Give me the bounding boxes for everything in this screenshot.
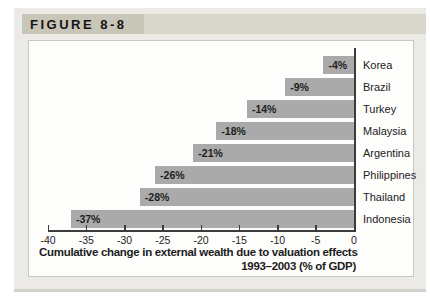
x-tick-label--35: -35 (71, 234, 101, 246)
bar-value-label: -18% (216, 125, 246, 137)
bar-value-label: -37% (71, 213, 101, 225)
figure-header-strip: FIGURE 8-8 (22, 14, 426, 34)
x-tick-label--5: -5 (301, 234, 331, 246)
figure-8-8-frame: FIGURE 8-8 -4%Korea-9%Brazil-14%Turkey-1… (14, 8, 426, 292)
country-label-korea: Korea (363, 56, 392, 74)
x-tick--15 (239, 225, 241, 230)
country-label-argentina: Argentina (363, 144, 410, 162)
country-label-indonesia: Indonesia (363, 210, 411, 228)
bar-argentina: -21% (193, 144, 354, 162)
bar-value-label: -26% (155, 169, 185, 181)
x-tick-label--40: -40 (33, 234, 63, 246)
chart-panel: -4%Korea-9%Brazil-14%Turkey-18%Malaysia-… (28, 40, 414, 277)
bar-thailand: -28% (140, 188, 354, 206)
x-tick--5 (315, 225, 317, 230)
x-tick--30 (124, 225, 126, 230)
country-label-thailand: Thailand (363, 188, 405, 206)
x-tick--40 (48, 225, 50, 230)
x-tick--20 (201, 225, 203, 230)
bar-value-label: -14% (247, 103, 277, 115)
x-tick-label--20: -20 (186, 234, 216, 246)
figure-label: FIGURE 8-8 (30, 17, 127, 32)
bar-value-label: -21% (193, 147, 223, 159)
chart-title: Cumulative change in external wealth due… (39, 246, 356, 273)
bar-turkey: -14% (247, 100, 354, 118)
bar-malaysia: -18% (216, 122, 354, 140)
bar-brazil: -9% (285, 78, 354, 96)
x-tick-label--10: -10 (263, 234, 293, 246)
x-tick--35 (86, 225, 88, 230)
zero-axis-line (354, 48, 356, 232)
bar-philippines: -26% (155, 166, 354, 184)
x-tick-label--15: -15 (224, 234, 254, 246)
country-label-malaysia: Malaysia (363, 122, 406, 140)
x-tick-label--25: -25 (148, 234, 178, 246)
x-tick-label-0: 0 (339, 234, 369, 246)
bar-value-label: -28% (140, 191, 170, 203)
x-tick-label--30: -30 (110, 234, 140, 246)
bar-indonesia: -37% (71, 210, 354, 228)
figure-label-box: FIGURE 8-8 (22, 14, 144, 34)
bar-korea: -4% (323, 56, 354, 74)
chart-title-line2: 1993–2003 (% of GDP) (39, 260, 356, 274)
country-label-philippines: Philippines (363, 166, 416, 184)
chart-title-line1: Cumulative change in external wealth due… (39, 246, 356, 260)
bar-value-label: -9% (285, 81, 309, 93)
x-tick--10 (277, 225, 279, 230)
country-label-brazil: Brazil (363, 78, 391, 96)
country-label-turkey: Turkey (363, 100, 396, 118)
x-axis-line (48, 230, 356, 232)
x-tick--25 (162, 225, 164, 230)
x-tick-0 (354, 225, 356, 230)
bar-value-label: -4% (323, 59, 347, 71)
